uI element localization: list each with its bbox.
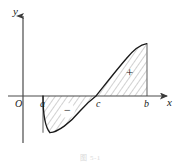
figure-signed-area: y x O a c b − + 图 5-1 — [0, 0, 181, 162]
figure-canvas — [0, 0, 181, 162]
positive-region-sign: + — [126, 66, 133, 79]
negative-region-sign: − — [60, 103, 75, 118]
figure-caption: 图 5-1 — [0, 155, 181, 162]
origin-label: O — [15, 99, 22, 109]
tick-label-c: c — [96, 99, 100, 109]
y-axis-label: y — [13, 6, 18, 17]
positive-region — [96, 44, 147, 96]
tick-label-a: a — [40, 99, 45, 109]
x-axis-label: x — [167, 97, 172, 108]
tick-label-b: b — [144, 99, 149, 109]
